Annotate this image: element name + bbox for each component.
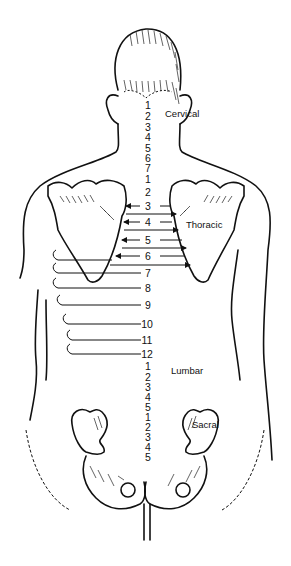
thoracic-6: 6 xyxy=(142,251,154,262)
thoracic-10: 10 xyxy=(141,319,153,330)
label-sacral: Sacral xyxy=(192,420,219,430)
nerve-arrows xyxy=(53,206,190,354)
thoracic-11: 11 xyxy=(141,335,153,346)
cervical-7: 7 xyxy=(142,163,154,174)
thoracic-12: 12 xyxy=(141,349,153,360)
right-scapula xyxy=(170,180,244,282)
label-thoracic: Thoracic xyxy=(186,220,222,230)
thoracic-2: 2 xyxy=(142,187,154,198)
cervical-1: 1 xyxy=(142,100,154,111)
label-lumbar: Lumbar xyxy=(171,366,203,376)
cervical-4: 4 xyxy=(142,132,154,143)
thoracic-9: 9 xyxy=(142,300,154,311)
thoracic-3: 3 xyxy=(142,201,154,212)
lumbar-1: 1 xyxy=(142,361,154,372)
thoracic-5: 5 xyxy=(142,235,154,246)
sacral-5: 5 xyxy=(142,452,154,463)
thoracic-4: 4 xyxy=(142,217,154,228)
label-cervical: Cervical xyxy=(165,109,199,119)
thoracic-1: 1 xyxy=(142,174,154,185)
left-scapula xyxy=(48,180,126,282)
thoracic-7: 7 xyxy=(142,268,154,279)
thoracic-8: 8 xyxy=(142,283,154,294)
cervical-2: 2 xyxy=(142,111,154,122)
